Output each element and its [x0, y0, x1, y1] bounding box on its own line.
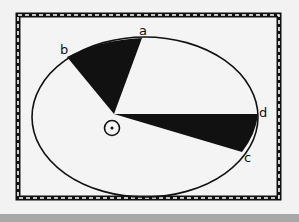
- label-d: d: [259, 105, 267, 120]
- dashed-frame: [18, 15, 279, 198]
- label-a: a: [139, 23, 147, 38]
- label-b: b: [60, 42, 68, 57]
- bottom-bar: [0, 214, 299, 222]
- orbit-diagram: a b c d: [0, 0, 299, 222]
- label-c: c: [244, 150, 251, 165]
- sun-center: [111, 127, 114, 130]
